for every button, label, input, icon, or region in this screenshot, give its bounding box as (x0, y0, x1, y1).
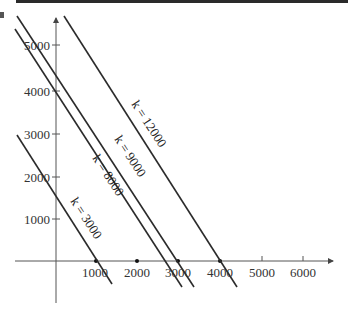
x-tick-3000: 3000 (165, 265, 191, 280)
line-k9000 (17, 16, 194, 287)
label-k12000: k = 12000 (128, 97, 169, 149)
x-tick-5000: 5000 (249, 265, 275, 280)
x-tick-labels: 1000 2000 3000 4000 5000 6000 (82, 265, 316, 280)
y-tick-1000: 1000 (24, 212, 50, 227)
label-k3000: k = 3000 (67, 194, 105, 241)
y-tick-3000: 3000 (24, 127, 50, 142)
y-tick-5000: 5000 (24, 38, 50, 53)
x-tick-2000: 2000 (124, 265, 150, 280)
x-tick-6000: 6000 (290, 265, 316, 280)
x-ticks (262, 256, 303, 261)
y-tick-4000: 4000 (24, 84, 50, 99)
x-tick-1000: 1000 (82, 265, 108, 280)
chart-canvas: k = 3000 k = 8000 k = 9000 k = 12000 100… (0, 0, 348, 313)
y-tick-2000: 2000 (24, 170, 50, 185)
x-tick-4000: 4000 (207, 265, 233, 280)
line-k12000 (64, 16, 237, 287)
y-tick-labels: 1000 2000 3000 4000 5000 (24, 38, 50, 227)
